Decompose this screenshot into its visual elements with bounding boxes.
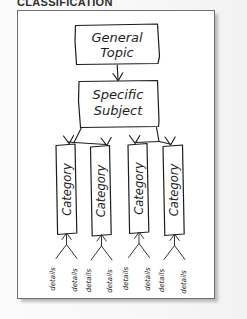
details-label-1: details	[49, 267, 57, 291]
category-2-label: Category	[94, 165, 108, 218]
details-labels: details details details details details …	[49, 266, 188, 293]
node-specific-subject[interactable]: Specific Subject	[79, 81, 160, 128]
connector-topic-to-subject	[113, 65, 123, 81]
details-label-8: details	[180, 270, 188, 294]
details-label-2: details	[71, 268, 79, 292]
category-4-label: Category	[167, 164, 181, 217]
connector-subject-to-categories	[64, 128, 176, 146]
node-category-2[interactable]: Category	[91, 146, 112, 237]
connector-category-1-to-details	[56, 233, 77, 259]
connector-category-4-to-details	[164, 234, 185, 260]
specific-subject-line2: Subject	[94, 103, 144, 118]
classification-tree-svg: General Topic Specific Subject	[18, 11, 214, 298]
details-label-4: details	[106, 269, 114, 293]
node-category-4[interactable]: Category	[163, 145, 184, 236]
category-1-label: Category	[60, 163, 74, 216]
general-topic-line1: General	[91, 30, 143, 45]
general-topic-line2: Topic	[100, 45, 133, 60]
node-category-3[interactable]: Category	[128, 144, 149, 234]
node-category-1[interactable]: Category	[56, 144, 77, 235]
details-label-5: details	[122, 266, 130, 290]
connector-category-3-to-details	[129, 232, 150, 258]
diagram-canvas: General Topic Specific Subject	[18, 11, 214, 298]
node-general-topic[interactable]: General Topic	[75, 24, 160, 65]
details-label-6: details	[144, 267, 152, 291]
page-title: CLASSIFICATION	[17, 0, 232, 9]
connector-category-2-to-details	[91, 235, 112, 261]
specific-subject-line1: Specific	[93, 87, 144, 102]
details-label-7: details	[158, 268, 166, 292]
category-3-label: Category	[132, 162, 146, 215]
diagram-panel: General Topic Specific Subject	[17, 10, 215, 299]
details-label-3: details	[85, 268, 93, 292]
